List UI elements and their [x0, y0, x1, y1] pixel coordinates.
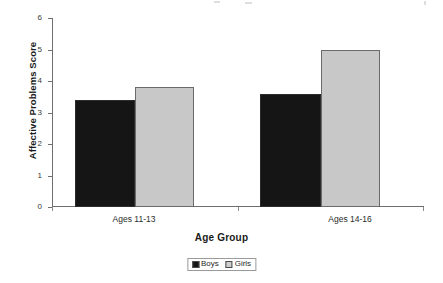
- legend-item-boys: Boys: [192, 260, 219, 268]
- x-axis-title: Age Group: [0, 232, 443, 243]
- y-tick-label-5: 5: [38, 46, 42, 54]
- y-tick-2: 2: [48, 144, 52, 145]
- legend-swatch-girls-icon: [226, 261, 233, 268]
- x-category-label-ages-14-16: Ages 14-16: [328, 214, 371, 224]
- bar-boys-ages-14-16: [260, 94, 321, 207]
- legend-item-girls: Girls: [226, 260, 251, 268]
- chart-legend: Boys Girls: [187, 258, 256, 271]
- legend-label-girls: Girls: [235, 260, 251, 268]
- y-tick-4: 4: [48, 81, 52, 82]
- scan-artifact: [245, 2, 252, 4]
- plot-area: 6 5 4 3 2 1 0: [52, 18, 424, 207]
- x-category-label-ages-11-13: Ages 11-13: [113, 214, 156, 224]
- scan-artifact: [214, 1, 220, 3]
- bar-girls-ages-14-16: [321, 50, 380, 208]
- y-axis-title: Affective Problems Score: [27, 6, 38, 196]
- y-tick-label-3: 3: [38, 109, 42, 117]
- y-tick-1: 1: [48, 176, 52, 177]
- scan-artifact: [424, 1, 426, 5]
- y-axis-line: [52, 18, 53, 207]
- y-tick-6: 6: [48, 18, 52, 19]
- y-tick-label-4: 4: [38, 77, 42, 85]
- bar-girls-ages-11-13: [135, 87, 194, 207]
- x-tick-right: [423, 207, 424, 211]
- y-tick-label-0: 0: [38, 203, 42, 211]
- x-tick-mid: [238, 207, 239, 211]
- y-tick-label-1: 1: [38, 172, 42, 180]
- y-tick-3: 3: [48, 113, 52, 114]
- legend-label-boys: Boys: [201, 260, 219, 268]
- y-tick-label-2: 2: [38, 140, 42, 148]
- bar-chart-figure: Affective Problems Score 6 5 4 3 2 1 0: [0, 0, 443, 283]
- y-tick-label-6: 6: [38, 14, 42, 22]
- bar-boys-ages-11-13: [75, 100, 135, 207]
- legend-swatch-boys-icon: [192, 261, 199, 268]
- x-tick-left: [52, 207, 53, 211]
- y-tick-5: 5: [48, 50, 52, 51]
